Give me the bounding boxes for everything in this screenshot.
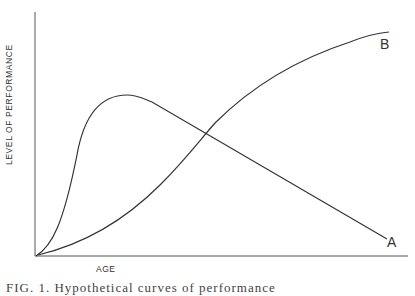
curve-b-label: B xyxy=(380,36,389,52)
curve-a xyxy=(36,95,387,256)
figure-caption: FIG. 1. Hypothetical curves of performan… xyxy=(6,280,276,296)
curve-b xyxy=(38,32,389,255)
x-axis-label: AGE xyxy=(96,264,115,274)
curve-a-label: A xyxy=(387,234,396,250)
y-axis-label: LEVEL OF PERFORMANCE xyxy=(4,44,14,165)
